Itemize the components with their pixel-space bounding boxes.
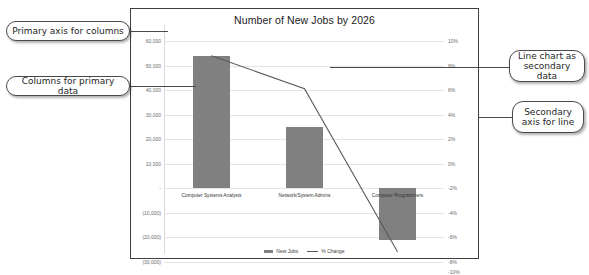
y-tick-neg30000: (30,000) bbox=[142, 259, 161, 265]
bar-swatch-icon bbox=[264, 250, 273, 253]
leader-line-line-chart bbox=[330, 67, 510, 68]
callout-text-line-chart-2: secondary data bbox=[515, 61, 579, 81]
chart-container: Number of New Jobs by 2026 60,000 50,000… bbox=[130, 8, 479, 259]
y-tick-40000: 40,000 bbox=[146, 87, 161, 93]
y-tick-10000: 10,000 bbox=[146, 161, 161, 167]
legend-item-percent-change[interactable]: % Change bbox=[307, 248, 344, 254]
callout-text-secondary-axis-2: axis for line bbox=[522, 117, 574, 127]
y2-tick-4: 4% bbox=[448, 112, 455, 118]
y2-tick-neg4: -4% bbox=[448, 210, 457, 216]
y2-tick-neg10: -10% bbox=[448, 269, 460, 275]
y-tick-zero: - bbox=[159, 185, 161, 191]
legend-item-new-jobs[interactable]: New Jobs bbox=[264, 248, 298, 254]
line-swatch-icon bbox=[307, 251, 318, 252]
leader-line-columns bbox=[128, 86, 196, 87]
y2-tick-10: 10% bbox=[448, 38, 458, 44]
callout-secondary-axis-for-line: Secondary axis for line bbox=[512, 101, 584, 133]
y-tick-30000: 30,000 bbox=[146, 112, 161, 118]
y-tick-neg20000: (20,000) bbox=[142, 234, 161, 240]
line-path bbox=[212, 56, 398, 252]
callout-text-columns: Columns for primary data bbox=[12, 76, 124, 96]
y-tick-60000: 60,000 bbox=[146, 38, 161, 44]
y-tick-neg10000: (10,000) bbox=[142, 210, 161, 216]
y2-tick-2: 2% bbox=[448, 136, 455, 142]
chart-legend: New Jobs % Change bbox=[131, 248, 478, 254]
y-tick-50000: 50,000 bbox=[146, 63, 161, 69]
y2-tick-neg2: -2% bbox=[448, 185, 457, 191]
leader-line-primary-axis bbox=[128, 31, 168, 32]
leader-line-secondary-axis bbox=[478, 117, 513, 118]
line-series-percent-change bbox=[164, 25, 444, 275]
y2-tick-neg8: -8% bbox=[448, 259, 457, 265]
legend-label-percent-change: % Change bbox=[321, 248, 344, 254]
y2-tick-0: 0% bbox=[448, 161, 455, 167]
y2-tick-neg6: -6% bbox=[448, 234, 457, 240]
callout-primary-axis-for-columns: Primary axis for columns bbox=[6, 21, 130, 41]
callout-line-chart-as-secondary-data: Line chart as secondary data bbox=[509, 50, 585, 82]
callout-text-line-chart-1: Line chart as bbox=[518, 51, 576, 61]
legend-label-new-jobs: New Jobs bbox=[276, 248, 298, 254]
y2-tick-6: 6% bbox=[448, 87, 455, 93]
plot-area: 60,000 50,000 40,000 30,000 20,000 10,00… bbox=[164, 25, 444, 262]
callout-text-primary-axis: Primary axis for columns bbox=[12, 26, 124, 36]
callout-columns-for-primary-data: Columns for primary data bbox=[6, 76, 130, 96]
callout-text-secondary-axis-1: Secondary bbox=[524, 107, 572, 117]
y-tick-20000: 20,000 bbox=[146, 136, 161, 142]
